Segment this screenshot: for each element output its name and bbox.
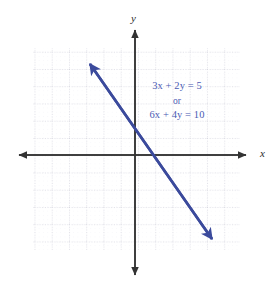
equation-primary: 3x + 2y = 5 <box>134 79 220 94</box>
graph-canvas <box>0 0 279 284</box>
linear-equation-graph: y x 3x + 2y = 5 or 6x + 4y = 10 <box>0 0 279 284</box>
axis-label-x: x <box>260 148 265 159</box>
axis-label-y: y <box>131 13 136 24</box>
equation-equivalent: 6x + 4y = 10 <box>134 108 220 123</box>
equation-connector: or <box>134 94 220 109</box>
equation-annotation: 3x + 2y = 5 or 6x + 4y = 10 <box>134 79 220 123</box>
